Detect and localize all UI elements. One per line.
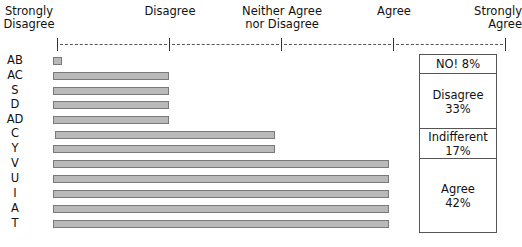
axis-tick [393, 38, 394, 51]
bar-c [55, 131, 275, 139]
scale-label-neutral: Neither Agree nor Disagree [238, 5, 326, 31]
row-label: A [0, 202, 30, 215]
row-label: AD [0, 113, 30, 126]
summary-indifferent: Indifferent 17% [420, 128, 496, 159]
bar-i [53, 190, 389, 198]
row-label: U [0, 172, 30, 185]
row-label: V [0, 157, 30, 170]
bar-ad [53, 116, 169, 124]
scale-label-strongly-agree: Strongly Agree [468, 5, 522, 31]
bar-u [53, 175, 389, 183]
row-label: AC [0, 69, 30, 82]
row-label: C [0, 127, 30, 140]
summary-box: NO! 8% Disagree 33% Indifferent 17% Agre… [419, 54, 497, 233]
row-label: D [0, 98, 30, 111]
summary-disagree: Disagree 33% [420, 73, 496, 129]
bar-d [53, 101, 169, 109]
row-label: Y [0, 142, 30, 155]
scale-label-disagree: Disagree [138, 5, 202, 18]
row-label: T [0, 217, 30, 230]
bar-y [53, 145, 275, 153]
bar-a [53, 205, 389, 213]
axis-tick [169, 38, 170, 51]
axis-dashes [172, 44, 279, 45]
bar-s [53, 87, 169, 95]
bar-ac [53, 72, 169, 80]
bar-ab [53, 57, 62, 65]
axis-tick [505, 38, 506, 51]
axis-dashes [284, 44, 391, 45]
bar-v [53, 160, 389, 168]
axis-dashes [60, 44, 167, 45]
row-label: I [0, 187, 30, 200]
scale-label-strongly-disagree: Strongly Disagree [3, 5, 55, 31]
bar-t [53, 220, 389, 228]
summary-no: NO! 8% [420, 55, 496, 73]
axis-tick [281, 38, 282, 51]
summary-agree: Agree 42% [420, 158, 496, 233]
row-label: S [0, 84, 30, 97]
axis-dashes [396, 44, 503, 45]
row-label: AB [0, 54, 30, 67]
axis-tick [57, 38, 58, 51]
scale-label-agree: Agree [372, 5, 416, 18]
